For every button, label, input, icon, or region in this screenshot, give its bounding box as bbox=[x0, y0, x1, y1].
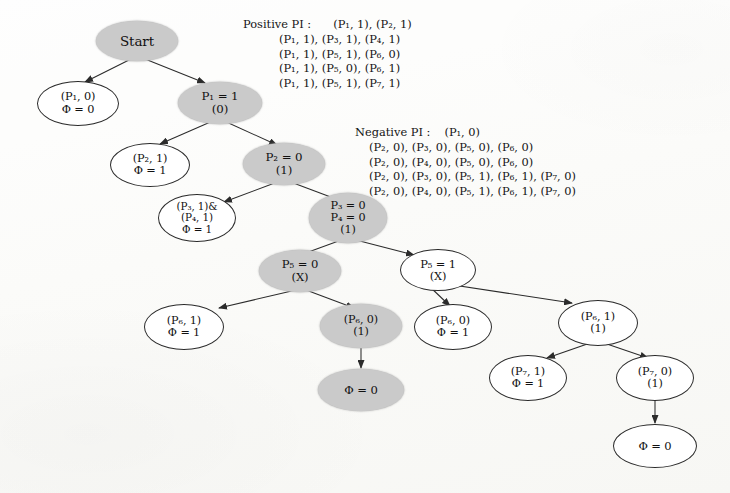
node-p6-one-right-line-1: (1) bbox=[590, 323, 606, 335]
node-p7-zero-line-1: (1) bbox=[647, 378, 663, 390]
node-phi-zero-end-line-0: Φ = 0 bbox=[638, 440, 671, 452]
node-p2-line-1: (1) bbox=[276, 164, 292, 177]
negative-pi-row-0: (P₁, 0) bbox=[444, 125, 480, 140]
node-p34-line-2: (1) bbox=[340, 224, 356, 236]
node-phi-zero-mid-line-0: Φ = 0 bbox=[344, 384, 377, 397]
node-p34-leaf-line-1: (P₄, 1) bbox=[181, 212, 213, 223]
negative-pi-row-4: (P₂, 0), (P₄, 0), (P₅, 1), (P₆, 1), (P₇,… bbox=[369, 184, 576, 199]
edge-p1true-p2node bbox=[222, 120, 277, 145]
node-p1-true-line-1: (0) bbox=[212, 103, 228, 116]
edge-start-p1false bbox=[85, 57, 135, 82]
positive-pi-row-1: (P₁, 1), (P₃, 1), (P₄, 1) bbox=[279, 32, 412, 47]
node-start-line-0: Start bbox=[120, 34, 154, 49]
positive-pi-row-3: (P₁, 1), (P₅, 0), (P₆, 1) bbox=[279, 61, 412, 76]
node-p1-false-line-0: (P₁, 0) bbox=[61, 91, 96, 103]
node-p2-leaf[interactable]: (P₂, 1) Φ = 1 bbox=[110, 143, 190, 187]
node-p34[interactable]: P₃ = 0 P₄ = 0 (1) bbox=[309, 193, 387, 243]
positive-pi-row-4: (P₁, 1), (P₅, 1), (P₇, 1) bbox=[279, 76, 412, 91]
node-phi-zero-mid[interactable]: Φ = 0 bbox=[318, 369, 404, 411]
negative-pi-row-2: (P₂, 0), (P₄, 0), (P₅, 0), (P₆, 0) bbox=[369, 155, 576, 170]
node-p6-zero-grey-line-1: (1) bbox=[353, 326, 369, 338]
edge-p5zero-p6oneleft bbox=[219, 290, 296, 308]
negative-pi-row-1: (P₂, 0), (P₃, 0), (P₅, 0), (P₆, 0) bbox=[369, 140, 576, 155]
edge-p1true-p2leaf bbox=[160, 120, 215, 144]
node-p6-zero-leaf[interactable]: (P₆, 0) Φ = 1 bbox=[414, 304, 492, 350]
node-p34-leaf-line-2: Φ = 1 bbox=[182, 224, 212, 235]
node-phi-zero-end[interactable]: Φ = 0 bbox=[613, 424, 697, 468]
node-p7-one-leaf[interactable]: (P₇, 1) Φ = 1 bbox=[489, 355, 567, 401]
node-p5-zero[interactable]: P₅ = 0 (X) bbox=[259, 250, 341, 292]
negative-pi-first-row: Negative PI : (P₁, 0) bbox=[355, 125, 576, 140]
node-start[interactable]: Start bbox=[96, 21, 178, 61]
figure-canvas: Positive PI : (P₁, 1), (P₂, 1) (P₁, 1), … bbox=[0, 0, 730, 493]
node-p1-true[interactable]: P₁ = 1 (0) bbox=[178, 82, 262, 124]
positive-pi-first-row: Positive PI : (P₁, 1), (P₂, 1) bbox=[243, 17, 412, 32]
positive-pi-row-0: (P₁, 1), (P₂, 1) bbox=[333, 17, 411, 32]
node-p5-zero-line-1: (X) bbox=[291, 271, 308, 284]
positive-pi-row-2: (P₁, 1), (P₅, 1), (P₆, 0) bbox=[279, 47, 412, 62]
negative-pi-block: Negative PI : (P₁, 0) (P₂, 0), (P₃, 0), … bbox=[355, 125, 576, 199]
node-p7-one-leaf-line-1: Φ = 1 bbox=[512, 378, 544, 390]
edge-start-p1true bbox=[140, 57, 205, 83]
node-p5-one[interactable]: P₅ = 1 (X) bbox=[400, 249, 476, 291]
node-p6-zero-leaf-line-1: Φ = 1 bbox=[437, 327, 469, 339]
node-p6-zero-grey[interactable]: (P₆, 0) (1) bbox=[320, 304, 402, 348]
node-p5-one-line-1: (X) bbox=[430, 270, 447, 282]
node-p2[interactable]: P₂ = 0 (1) bbox=[243, 143, 325, 185]
node-p6-one-left-line-1: Φ = 1 bbox=[168, 327, 200, 339]
node-p7-zero[interactable]: (P₇, 0) (1) bbox=[616, 355, 694, 401]
node-p2-leaf-line-1: Φ = 1 bbox=[134, 165, 167, 177]
negative-pi-row-3: (P₂, 0), (P₃, 0), (P₅, 1), (P₆, 1), (P₇,… bbox=[369, 169, 576, 184]
positive-pi-block: Positive PI : (P₁, 1), (P₂, 1) (P₁, 1), … bbox=[243, 17, 412, 91]
node-p1-false[interactable]: (P₁, 0) Φ = 0 bbox=[37, 81, 119, 126]
node-p1-false-line-1: Φ = 0 bbox=[62, 104, 95, 116]
node-p6-one-right[interactable]: (P₆, 1) (1) bbox=[558, 300, 638, 346]
node-p6-one-left[interactable]: (P₆, 1) Φ = 1 bbox=[144, 304, 224, 350]
node-p34-leaf[interactable]: (P₃, 1)& (P₄, 1) Φ = 1 bbox=[158, 194, 236, 242]
positive-pi-title: Positive PI : bbox=[243, 17, 311, 32]
negative-pi-title: Negative PI : bbox=[355, 125, 430, 140]
